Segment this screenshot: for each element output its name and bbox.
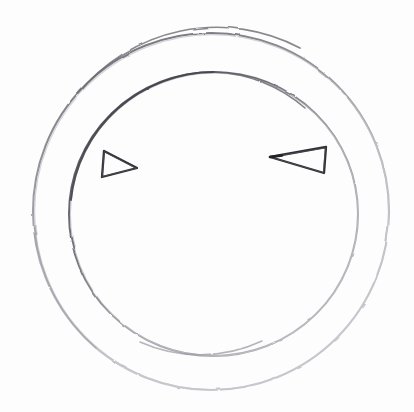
left-triangle: [102, 151, 137, 177]
inner-circle: [69, 72, 358, 356]
inner-circle-second-pass: [70, 73, 358, 356]
sketch-svg: [0, 0, 414, 412]
outer-circle: [33, 27, 389, 390]
drawing-canvas: Hand-drawn sketch A hand-drawn pencil sk…: [0, 0, 414, 412]
right-triangle-stroke: [270, 147, 326, 173]
right-triangle-apex-accent: [270, 156, 282, 158]
inner-circle-topright-accent: [214, 72, 305, 108]
left-triangle-stroke: [102, 151, 137, 177]
outer-circle-second-pass: [35, 35, 389, 390]
outer-circle-left-accent: [35, 232, 96, 348]
right-triangle: [270, 147, 326, 173]
